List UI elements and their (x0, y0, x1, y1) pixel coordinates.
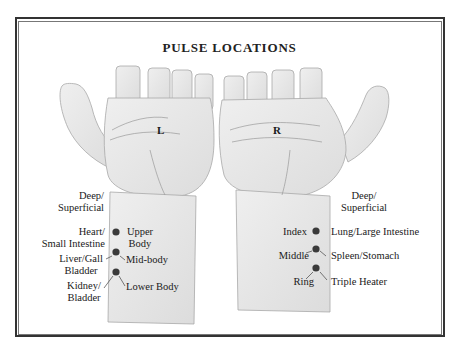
left-region-lower-body: Lower Body (126, 281, 179, 293)
right-organ-lung-large-intestine: Lung/Large Intestine (331, 226, 419, 238)
right-depth-label: Deep/ Superficial (332, 190, 396, 213)
pulse-dot-left-upper (112, 228, 119, 235)
right-finger-index: Index (283, 226, 307, 238)
right-organ-spleen-stomach: Spleen/Stomach (331, 250, 399, 262)
right-organ-triple-heater: Triple Heater (331, 276, 387, 288)
left-region-mid-body: Mid-body (126, 254, 168, 266)
right-hand-label: R (273, 124, 281, 136)
right-finger-middle: Middle (279, 250, 309, 262)
pulse-dot-right-index (312, 227, 319, 234)
left-organ-kidney-bladder: Kidney/ Bladder (62, 280, 106, 303)
left-region-upper-body: Upper Body (123, 226, 157, 249)
pulse-dot-left-mid (112, 248, 119, 255)
left-depth-label: Deep/ Superficial (58, 190, 104, 213)
right-finger-ring: Ring (294, 276, 314, 288)
left-organ-heart-small-intestine: Heart/ Small Intestine (42, 226, 105, 249)
pulse-dot-right-ring (312, 264, 319, 271)
pulse-dot-right-middle (312, 245, 319, 252)
left-hand-label: L (157, 124, 164, 136)
pulse-dot-left-lower (112, 268, 119, 275)
left-organ-liver-gall-bladder: Liver/Gall Bladder (53, 253, 109, 276)
